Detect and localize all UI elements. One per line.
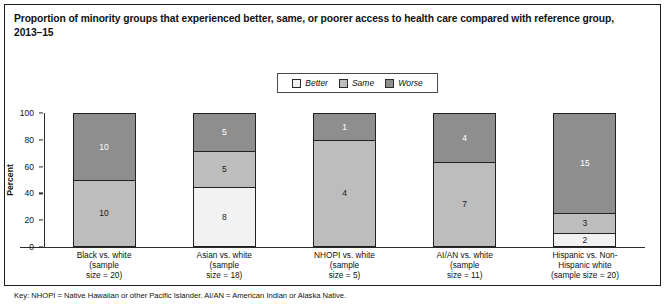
chart-figure: Proportion of minority groups that exper… xyxy=(0,0,665,304)
bar-segment-value: 15 xyxy=(580,159,589,168)
bar-segment-better[interactable]: 2 xyxy=(554,233,615,246)
bar-segment-worse[interactable]: 15 xyxy=(554,114,615,213)
bar-column[interactable]: 14 xyxy=(313,113,376,247)
page-title: Proportion of minority groups that exper… xyxy=(14,12,644,39)
bar-segment-value: 1 xyxy=(342,123,347,132)
plot-area: 101055814471532 xyxy=(44,113,645,247)
y-tick-mark xyxy=(39,193,43,194)
bar-segment-value: 3 xyxy=(583,219,588,228)
y-tick-mark xyxy=(39,166,43,167)
bar-segment-value: 10 xyxy=(99,209,108,218)
y-tick-mark xyxy=(39,139,43,140)
bar-segment-worse[interactable]: 1 xyxy=(314,114,375,140)
x-axis-category-label: Black vs. white (sample size = 20) xyxy=(44,250,164,281)
bar-column[interactable]: 1532 xyxy=(553,113,616,247)
legend-swatch-worse-icon xyxy=(385,79,394,88)
bar-segment-same[interactable]: 7 xyxy=(434,162,495,246)
x-axis-category-label: Hispanic vs. Non- Hispanic white (sample… xyxy=(525,250,645,281)
bar-column[interactable]: 558 xyxy=(193,113,256,247)
legend-label: Better xyxy=(305,78,328,88)
bar-segment-same[interactable]: 4 xyxy=(314,140,375,246)
y-tick-label: 0 xyxy=(8,242,34,252)
y-tick-label: 20 xyxy=(8,215,34,225)
y-tick-mark xyxy=(39,220,43,221)
bar-segment-value: 10 xyxy=(99,143,108,152)
bar-segment-value: 7 xyxy=(462,200,467,209)
bar-segment-better[interactable]: 8 xyxy=(194,187,255,246)
legend-label: Worse xyxy=(398,78,423,88)
legend-swatch-better-icon xyxy=(292,79,301,88)
y-tick-mark xyxy=(39,246,43,247)
bar-segment-same[interactable]: 5 xyxy=(194,151,255,188)
bar-segment-value: 4 xyxy=(462,134,467,143)
bar-segment-value: 2 xyxy=(583,236,588,245)
bar-segment-value: 5 xyxy=(222,165,227,174)
y-tick-label: 40 xyxy=(8,188,34,198)
legend-item-better[interactable]: Better xyxy=(292,78,328,88)
x-axis-category-label: AI/AN vs. white (sample size = 11) xyxy=(405,250,525,281)
y-tick-label: 60 xyxy=(8,162,34,172)
bar-segment-value: 8 xyxy=(222,213,227,222)
bar-segment-same[interactable]: 10 xyxy=(74,180,135,246)
bar-column[interactable]: 47 xyxy=(433,113,496,247)
x-axis-category-label: NHOPI vs. white (sample size = 5) xyxy=(284,250,404,281)
bar-segment-value: 5 xyxy=(222,128,227,137)
footnote: Key: NHOPI = Native Hawaiian or other Pa… xyxy=(14,291,346,300)
chart-legend: BetterSameWorse xyxy=(277,73,438,93)
bar-segment-worse[interactable]: 10 xyxy=(74,114,135,180)
bar-column[interactable]: 1010 xyxy=(73,113,136,247)
y-tick-label: 80 xyxy=(8,135,34,145)
bar-segment-worse[interactable]: 4 xyxy=(434,114,495,162)
legend-label: Same xyxy=(352,78,374,88)
bar-segment-same[interactable]: 3 xyxy=(554,213,615,233)
x-axis-category-label: Asian vs. white (sample size = 18) xyxy=(164,250,284,281)
legend-item-worse[interactable]: Worse xyxy=(385,78,423,88)
y-tick-mark xyxy=(39,112,43,113)
y-tick-label: 100 xyxy=(8,108,34,118)
legend-swatch-same-icon xyxy=(339,79,348,88)
bar-segment-worse[interactable]: 5 xyxy=(194,114,255,151)
bar-segment-value: 4 xyxy=(342,189,347,198)
legend-item-same[interactable]: Same xyxy=(339,78,374,88)
